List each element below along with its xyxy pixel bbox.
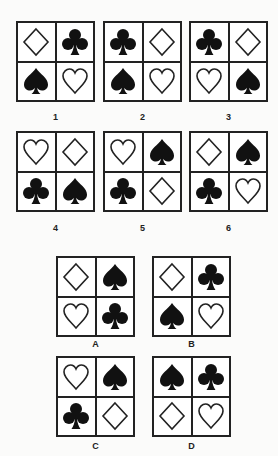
- series-figure-5: [103, 131, 182, 212]
- grid-cell: [104, 132, 143, 172]
- grid-cell: [56, 132, 95, 172]
- grid-cell: [17, 172, 56, 212]
- diamond-icon: [157, 401, 187, 431]
- grid-cell: [17, 132, 56, 172]
- figure-number-label: 3: [189, 112, 268, 122]
- grid-cell: [57, 357, 96, 397]
- figure-number-label: 6: [189, 223, 268, 233]
- spade-icon: [147, 137, 177, 167]
- grid-cell: [104, 172, 143, 212]
- grid-cell: [96, 357, 135, 397]
- heart-icon: [196, 401, 226, 431]
- club-icon: [196, 262, 226, 292]
- grid-cell: [17, 62, 56, 102]
- series-figure-2: [103, 21, 182, 102]
- figure-number-label: 4: [16, 223, 95, 233]
- grid-cell: [153, 397, 192, 437]
- club-icon: [108, 27, 138, 57]
- answer-option-B[interactable]: [152, 256, 231, 337]
- spade-icon: [100, 262, 130, 292]
- answer-option-A[interactable]: [56, 256, 135, 337]
- grid-cell: [229, 132, 268, 172]
- figure-number-label: 2: [103, 112, 182, 122]
- grid-cell: [56, 62, 95, 102]
- series-figure-4: [16, 131, 95, 212]
- diamond-icon: [60, 137, 90, 167]
- club-icon: [108, 176, 138, 206]
- heart-icon: [194, 66, 224, 96]
- figure-number-label: 5: [103, 223, 182, 233]
- option-letter-label: B: [152, 339, 231, 349]
- heart-icon: [61, 362, 91, 392]
- spade-icon: [21, 66, 51, 96]
- grid-cell: [57, 297, 96, 337]
- diamond-icon: [157, 262, 187, 292]
- diamond-icon: [61, 262, 91, 292]
- option-letter-label: D: [152, 441, 231, 451]
- grid-cell: [153, 357, 192, 397]
- diamond-icon: [100, 401, 130, 431]
- diamond-icon: [147, 176, 177, 206]
- grid-cell: [104, 22, 143, 62]
- grid-cell: [17, 22, 56, 62]
- heart-icon: [60, 66, 90, 96]
- option-letter-label: C: [56, 441, 135, 451]
- grid-cell: [143, 132, 182, 172]
- grid-cell: [229, 172, 268, 212]
- clipped-question-text: [14, 0, 144, 5]
- grid-cell: [96, 397, 135, 437]
- spade-icon: [233, 137, 263, 167]
- grid-cell: [153, 297, 192, 337]
- spade-icon: [100, 362, 130, 392]
- grid-cell: [190, 62, 229, 102]
- club-icon: [194, 27, 224, 57]
- grid-cell: [190, 22, 229, 62]
- answer-option-D[interactable]: [152, 356, 231, 437]
- club-icon: [60, 27, 90, 57]
- option-letter-label: A: [56, 339, 135, 349]
- spade-icon: [233, 66, 263, 96]
- grid-cell: [190, 132, 229, 172]
- grid-cell: [192, 357, 231, 397]
- club-icon: [100, 301, 130, 331]
- grid-cell: [229, 22, 268, 62]
- series-figure-3: [189, 21, 268, 102]
- answer-option-C[interactable]: [56, 356, 135, 437]
- diamond-icon: [194, 137, 224, 167]
- spade-icon: [157, 362, 187, 392]
- heart-icon: [21, 137, 51, 167]
- grid-cell: [192, 397, 231, 437]
- grid-cell: [153, 257, 192, 297]
- grid-cell: [56, 22, 95, 62]
- club-icon: [61, 401, 91, 431]
- grid-cell: [143, 172, 182, 212]
- grid-cell: [190, 172, 229, 212]
- grid-cell: [96, 257, 135, 297]
- club-icon: [196, 362, 226, 392]
- grid-cell: [143, 62, 182, 102]
- club-icon: [194, 176, 224, 206]
- grid-cell: [192, 257, 231, 297]
- grid-cell: [96, 297, 135, 337]
- heart-icon: [61, 301, 91, 331]
- heart-icon: [196, 301, 226, 331]
- heart-icon: [233, 176, 263, 206]
- series-figure-6: [189, 131, 268, 212]
- diamond-icon: [233, 27, 263, 57]
- spade-icon: [108, 66, 138, 96]
- spade-icon: [157, 301, 187, 331]
- grid-cell: [143, 22, 182, 62]
- grid-cell: [229, 62, 268, 102]
- diamond-icon: [147, 27, 177, 57]
- grid-cell: [57, 397, 96, 437]
- grid-cell: [192, 297, 231, 337]
- series-figure-1: [16, 21, 95, 102]
- spade-icon: [60, 176, 90, 206]
- figure-number-label: 1: [16, 112, 95, 122]
- heart-icon: [108, 137, 138, 167]
- heart-icon: [147, 66, 177, 96]
- diamond-icon: [21, 27, 51, 57]
- grid-cell: [57, 257, 96, 297]
- grid-cell: [104, 62, 143, 102]
- club-icon: [21, 176, 51, 206]
